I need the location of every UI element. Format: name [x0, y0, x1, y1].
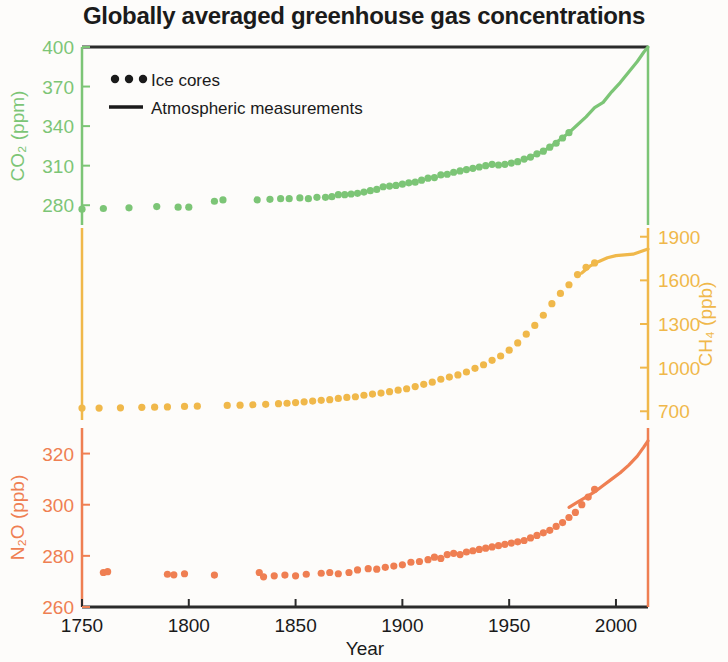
series-dots-co2 [78, 129, 572, 213]
data-point [469, 547, 476, 554]
data-point [431, 554, 438, 561]
data-point [185, 204, 192, 211]
data-point [488, 543, 495, 550]
data-point [326, 569, 333, 576]
data-point [164, 571, 171, 578]
data-point [456, 167, 463, 174]
data-point [546, 527, 553, 534]
data-point [365, 565, 372, 572]
data-point [318, 397, 325, 404]
data-point [181, 570, 188, 577]
y-tick-label-co2: 310 [42, 156, 74, 177]
data-point [335, 570, 342, 577]
data-point [328, 193, 335, 200]
data-point [373, 566, 380, 573]
series-dots-n2o [100, 486, 598, 581]
data-point [514, 339, 521, 346]
y-tick-label-co2: 400 [42, 37, 74, 58]
y-tick-label-co2: 340 [42, 116, 74, 137]
data-point [463, 368, 470, 375]
data-point [424, 175, 431, 182]
data-point [482, 162, 489, 169]
data-point [514, 538, 521, 545]
data-point [444, 551, 451, 558]
chart-svg: 1750180018501900195020002803103403704007… [0, 0, 728, 662]
data-point [318, 570, 325, 577]
y-tick-label-ch4: 1300 [658, 314, 700, 335]
data-point [399, 181, 406, 188]
y-tick-label-ch4: 1900 [658, 227, 700, 248]
data-point [373, 186, 380, 193]
data-point [277, 195, 284, 202]
y-axis-title-ch4: CH₄ (ppb) [695, 282, 716, 367]
data-point [322, 194, 329, 201]
data-point [395, 387, 402, 394]
data-point [390, 562, 397, 569]
data-point [313, 194, 320, 201]
data-point [431, 174, 438, 181]
y-axis-title-co2: CO₂ (ppm) [7, 91, 28, 182]
data-point [521, 537, 528, 544]
data-point [224, 402, 231, 409]
data-point [572, 509, 579, 516]
data-point [523, 331, 530, 338]
data-point [380, 183, 387, 190]
data-point [283, 400, 290, 407]
data-point [281, 571, 288, 578]
data-point [367, 187, 374, 194]
data-point [463, 548, 470, 555]
data-point [454, 371, 461, 378]
data-point [456, 551, 463, 558]
data-point [360, 392, 367, 399]
x-axis-title: Year [346, 638, 385, 659]
data-point [211, 571, 218, 578]
data-point [407, 559, 414, 566]
data-point [181, 403, 188, 410]
data-point [501, 161, 508, 168]
data-point [275, 400, 282, 407]
data-point [480, 361, 487, 368]
data-point [437, 376, 444, 383]
data-point [392, 182, 399, 189]
series-line-co2 [526, 47, 648, 159]
data-point [444, 171, 451, 178]
greenhouse-gas-chart-figure: Globally averaged greenhouse gas concent… [0, 0, 728, 662]
data-point [437, 171, 444, 178]
chart-legend: Ice coresAtmospheric measurements [109, 71, 363, 118]
legend-dot-marker [139, 75, 147, 83]
data-point [471, 365, 478, 372]
data-point [354, 190, 361, 197]
series-dots-ch4 [78, 259, 598, 411]
data-point [296, 194, 303, 201]
y-tick-label-n2o: 300 [42, 495, 74, 516]
data-point [506, 347, 513, 354]
series-line-n2o [569, 441, 648, 507]
data-point [416, 558, 423, 565]
y-tick-label-ch4: 1000 [658, 358, 700, 379]
data-point [260, 573, 267, 580]
data-point [219, 196, 226, 203]
data-point [164, 403, 171, 410]
data-point [495, 542, 502, 549]
y-tick-label-n2o: 260 [42, 597, 74, 618]
data-point [292, 572, 299, 579]
data-point [100, 205, 107, 212]
data-point [78, 206, 85, 213]
y-tick-label-n2o: 280 [42, 546, 74, 567]
data-point [553, 523, 560, 530]
x-tick-label: 1950 [488, 615, 530, 636]
data-point [497, 352, 504, 359]
data-point [286, 195, 293, 202]
x-tick-label: 1750 [61, 615, 103, 636]
data-point [262, 401, 269, 408]
data-point [476, 163, 483, 170]
data-point [266, 196, 273, 203]
data-point [254, 196, 261, 203]
legend-label-atmospheric-measurements: Atmospheric measurements [151, 99, 363, 118]
data-point [348, 190, 355, 197]
x-tick-label: 1800 [168, 615, 210, 636]
data-point [125, 204, 132, 211]
data-point [249, 401, 256, 408]
data-point [78, 404, 85, 411]
data-point [236, 402, 243, 409]
